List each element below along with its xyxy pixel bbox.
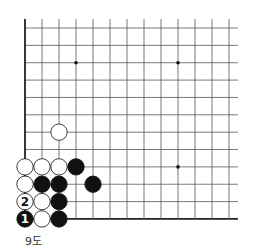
white-stone	[34, 211, 50, 227]
white-stone	[51, 159, 67, 175]
white-stone	[17, 159, 33, 175]
black-stone	[68, 159, 84, 175]
black-stone	[85, 176, 101, 192]
star-point	[176, 165, 180, 169]
star-point	[176, 61, 180, 65]
star-point	[74, 61, 78, 65]
black-stone	[51, 176, 67, 192]
move-number-label: 2	[21, 195, 29, 209]
black-stone	[51, 193, 67, 209]
white-stone	[51, 124, 67, 140]
white-stone	[17, 176, 33, 192]
white-stone	[34, 193, 50, 209]
go-board: 21	[0, 0, 253, 252]
black-stone	[51, 211, 67, 227]
white-stone	[34, 159, 50, 175]
black-stone	[34, 176, 50, 192]
diagram-caption: 9도	[25, 232, 42, 248]
move-number-label: 1	[21, 212, 29, 226]
